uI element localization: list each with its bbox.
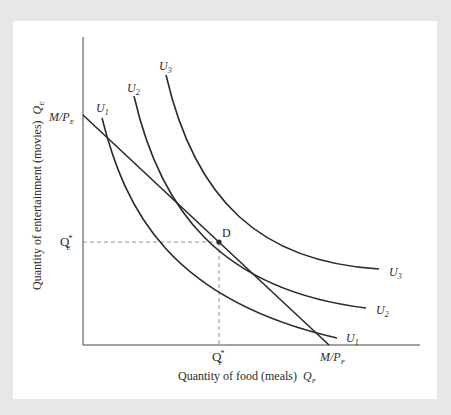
- q-e-star-label: Q*E: [60, 234, 72, 252]
- u1-end-label: U1: [346, 331, 359, 347]
- budget-y-intercept-label: M/PE: [48, 110, 75, 126]
- budget-line: [83, 115, 329, 345]
- point-d-label: D: [222, 226, 231, 240]
- indifference-curve-u3: [166, 75, 379, 269]
- u2-end-label: U2: [376, 303, 389, 319]
- u3-top-label: U3: [159, 59, 172, 75]
- indifference-curve-diagram: D U1 U2 U3 U1 U2 U3 M/PE M/PF Q*E Q*F Qu…: [0, 0, 451, 415]
- u3-end-label: U3: [389, 265, 402, 281]
- optimum-point-d: [216, 239, 221, 244]
- u1-top-label: U1: [96, 101, 109, 117]
- u2-top-label: U2: [127, 81, 140, 97]
- budget-x-intercept-label: M/PF: [319, 350, 346, 366]
- q-f-star-label: Q*F: [212, 349, 224, 367]
- indifference-curve-u2: [134, 96, 366, 308]
- indifference-curve-u1: [102, 118, 337, 338]
- x-axis-title: Quantity of food (meals)QF: [178, 369, 317, 385]
- y-axis-title: Quantity of entertainment (movies)QE: [30, 101, 46, 290]
